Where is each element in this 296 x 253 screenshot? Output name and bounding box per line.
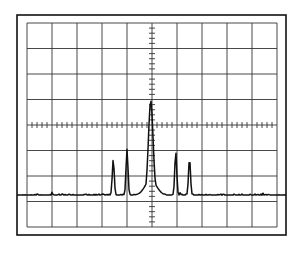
oscilloscope-display: [0, 0, 296, 253]
